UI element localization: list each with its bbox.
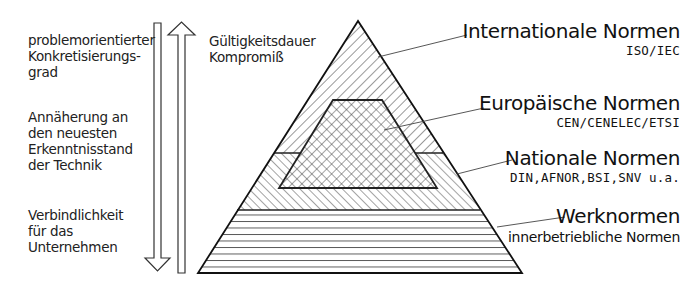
- left-axis-line: Unternehmen: [28, 240, 123, 256]
- leader-international: [378, 35, 467, 57]
- tier-title: Werknormen: [508, 205, 680, 229]
- left-axis-line: für das: [28, 224, 123, 240]
- tier-title: Europäische Normen: [479, 92, 680, 116]
- left-axis-line: Konkretisierungs-: [28, 49, 155, 65]
- tier-subtitle: DIN,AFNOR,BSI,SNV u.a.: [505, 171, 680, 186]
- left-axis-line: Verbindlichkeit: [28, 208, 123, 224]
- right-axis-labels: Gültigkeitsdauer Kompromiß: [209, 34, 316, 66]
- tier-label-national: Nationale Normen DIN,AFNOR,BSI,SNV u.a.: [505, 147, 680, 185]
- left-axis-line: der Technik: [28, 158, 133, 174]
- right-axis-line: Kompromiß: [209, 50, 316, 66]
- left-axis-line: grad: [28, 65, 155, 81]
- right-axis-line: Gültigkeitsdauer: [209, 34, 316, 50]
- tier-subtitle: CEN/CENELEC/ETSI: [479, 116, 680, 131]
- left-axis-line: den neuesten: [28, 126, 133, 142]
- left-axis-line: Annäherung an: [28, 110, 133, 126]
- left-axis-line: problemorientierter: [28, 33, 155, 49]
- tier-company-fill: [190, 210, 530, 274]
- tier-label-company: Werknormen innerbetriebliche Normen: [508, 205, 680, 245]
- leader-national: [457, 160, 512, 174]
- left-axis-line: Erkenntnisstand: [28, 142, 133, 158]
- tier-title: Nationale Normen: [505, 147, 680, 171]
- left-axis-group-3: Verbindlichkeit für das Unternehmen: [28, 208, 123, 256]
- tier-subtitle: innerbetriebliche Normen: [508, 229, 680, 246]
- tier-subtitle: ISO/IEC: [463, 44, 680, 59]
- left-axis-group-2: Annäherung an den neuesten Erkenntnissta…: [28, 110, 133, 174]
- left-axis-group-1: problemorientierter Konkretisierungs- gr…: [28, 33, 155, 81]
- tier-label-european: Europäische Normen CEN/CENELEC/ETSI: [479, 92, 680, 130]
- up-arrow-icon: [168, 22, 195, 273]
- tier-label-international: Internationale Normen ISO/IEC: [463, 20, 680, 58]
- tier-title: Internationale Normen: [463, 20, 680, 44]
